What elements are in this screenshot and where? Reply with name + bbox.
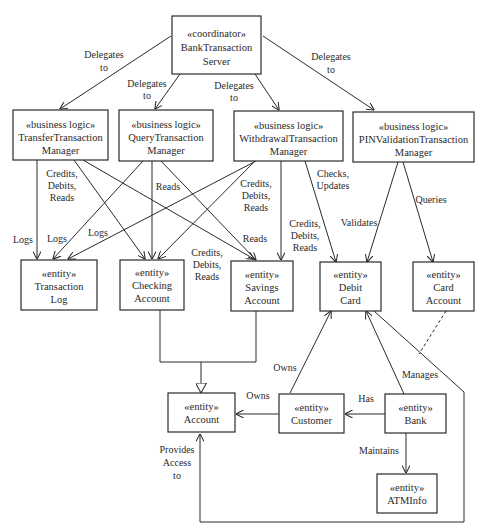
label-withdrawal-cdr-savings: Credits, — [289, 218, 320, 229]
label-transfer-cdr: Credits, — [46, 168, 77, 179]
label-query-logs: Logs — [47, 233, 67, 244]
class-name: Customer — [291, 415, 332, 426]
label-transfer-cdr-savings-2: Debits, — [193, 259, 222, 270]
label-customer-owns-account: Owns — [246, 390, 269, 401]
edge-cardacct-association — [419, 311, 446, 354]
label-transfer-logs: Logs — [13, 234, 33, 245]
label-delegates-transfer-2: to — [100, 62, 108, 73]
node-transfer-transaction-manager[interactable]: «business logic» TransferTransaction Man… — [13, 110, 108, 160]
stereotype: «business logic» — [131, 119, 201, 130]
stereotype: «entity» — [184, 401, 218, 412]
label-transfer-cdr-savings-3: Reads — [195, 271, 220, 282]
label-transfer-cdr-2: Debits, — [48, 180, 77, 191]
edge-server-withdrawal — [255, 74, 279, 110]
label-withdrawal-cdr-checking-3: Reads — [244, 202, 269, 213]
class-name: Manager — [42, 145, 80, 156]
stereotype: «entity» — [294, 402, 328, 413]
label-delegates-pin: Delegates — [311, 51, 351, 62]
uml-class-diagram: «coordinator» BankTransaction Server «bu… — [0, 0, 482, 532]
stereotype: «business logic» — [254, 120, 324, 131]
class-name: Server — [203, 56, 231, 67]
label-queries: Queries — [415, 194, 446, 205]
label-transfer-cdr-3: Reads — [50, 192, 75, 203]
edge-customer-debit — [290, 311, 331, 393]
node-pin-validation-transaction-manager[interactable]: «business logic» PINValidationTransactio… — [353, 112, 474, 162]
class-name: Manager — [147, 145, 185, 156]
label-withdrawal-cdr-checking-2: Debits, — [242, 190, 271, 201]
label-transfer-cdr-savings: Credits, — [191, 247, 222, 258]
edge-server-transfer — [60, 36, 171, 109]
node-account[interactable]: «entity» Account — [168, 393, 235, 432]
class-name: PINValidationTransaction — [359, 134, 469, 145]
class-name: TransferTransaction — [18, 132, 103, 143]
class-name: Account — [134, 293, 170, 304]
label-bank-has-customer: Has — [358, 393, 374, 404]
node-withdrawal-transaction-manager[interactable]: «business logic» WithdrawalTransaction M… — [234, 111, 343, 161]
label-withdrawal-cdr-savings-3: Reads — [293, 242, 318, 253]
node-bank-transaction-server[interactable]: «coordinator» BankTransaction Server — [172, 16, 261, 74]
stereotype: «entity» — [426, 269, 460, 280]
stereotype: «entity» — [42, 268, 76, 279]
node-customer[interactable]: «entity» Customer — [279, 394, 344, 433]
label-provides-access: Provides — [160, 444, 195, 455]
label-withdrawal-cdr-savings-2: Debits, — [291, 230, 320, 241]
stereotype: «business logic» — [26, 119, 96, 130]
class-name: QueryTransaction — [128, 132, 204, 143]
stereotype: «entity» — [390, 482, 424, 493]
label-provides-access-2: Access — [163, 457, 191, 468]
label-checks-updates: Checks, — [317, 168, 349, 179]
class-name: Log — [51, 294, 69, 305]
label-checks-updates-2: Updates — [317, 180, 350, 191]
class-name: Bank — [404, 415, 427, 426]
node-query-transaction-manager[interactable]: «business logic» QueryTransaction Manage… — [119, 110, 213, 161]
class-name: Debit — [339, 282, 362, 293]
label-query-reads-savings: Reads — [243, 233, 268, 244]
label-query-reads-checking: Reads — [156, 181, 181, 192]
stereotype: «entity» — [398, 402, 432, 413]
stereotype: «entity» — [245, 269, 279, 280]
stereotype: «coordinator» — [187, 28, 246, 39]
label-delegates-query: Delegates — [127, 78, 167, 89]
class-name: Manager — [395, 147, 433, 158]
class-name: Account — [184, 414, 220, 425]
class-name: Manager — [270, 146, 308, 157]
label-delegates-withdrawal: Delegates — [214, 80, 254, 91]
label-delegates-query-2: to — [143, 90, 151, 101]
label-delegates-transfer: Delegates — [84, 49, 124, 60]
class-name: Transaction — [34, 281, 84, 292]
label-delegates-withdrawal-2: to — [230, 92, 238, 103]
class-name: Checking — [132, 280, 173, 291]
class-name: BankTransaction — [181, 42, 253, 53]
label-withdrawal-logs: Logs — [88, 227, 108, 238]
node-card-account[interactable]: «entity» Card Account — [413, 262, 474, 311]
node-checking-account[interactable]: «entity» Checking Account — [120, 260, 184, 310]
node-debit-card[interactable]: «entity» Debit Card — [320, 262, 381, 311]
stereotype: «entity» — [135, 267, 169, 278]
edge-checking-generalization — [160, 310, 256, 362]
node-transaction-log[interactable]: «entity» Transaction Log — [21, 260, 97, 310]
class-name: Savings — [245, 282, 278, 293]
class-name: Card — [340, 295, 361, 306]
stereotype: «entity» — [333, 269, 367, 280]
node-bank[interactable]: «entity» Bank — [385, 394, 446, 433]
class-name: Account — [426, 295, 462, 306]
label-customer-owns-debit: Owns — [273, 362, 296, 373]
class-name: WithdrawalTransaction — [239, 133, 338, 144]
stereotype: «business logic» — [379, 121, 449, 132]
edge-pin-cardacct — [403, 162, 433, 262]
edge-pin-debit — [367, 162, 398, 262]
edge-query-savings — [161, 161, 256, 260]
class-name: Account — [244, 295, 280, 306]
label-delegates-pin-2: to — [327, 64, 335, 75]
node-savings-account[interactable]: «entity» Savings Account — [231, 261, 293, 311]
label-bank-manages-debit: Manages — [402, 369, 438, 380]
edge-server-pin — [263, 36, 374, 110]
class-name: Card — [433, 282, 454, 293]
label-validates: Validates — [341, 217, 378, 228]
node-atminfo[interactable]: «entity» ATMInfo — [377, 474, 437, 513]
class-name: ATMInfo — [387, 495, 427, 506]
label-withdrawal-cdr-checking: Credits, — [240, 178, 271, 189]
edge-bank-debit — [366, 311, 404, 394]
label-provides-access-3: to — [173, 470, 181, 481]
label-bank-maintains-atminfo: Maintains — [359, 445, 399, 456]
